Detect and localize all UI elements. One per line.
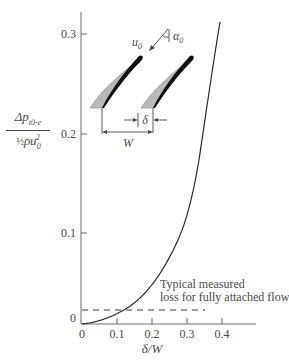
annotation-line-2: loss for fully attached flow [160,290,289,304]
arrow-head-icon [148,130,153,134]
x-tick-label: 0.1 [110,327,125,341]
x-tick-label: 0.4 [215,327,230,341]
arrow-head-icon [153,118,158,122]
blade-1 [90,55,143,108]
y-tick-label: 0.2 [61,127,76,141]
blade-2 [141,55,194,108]
gap-label: δ [142,113,148,127]
blade-2-body [153,55,194,108]
y-tick-label: 0.1 [61,226,76,240]
x-ticks [117,318,222,324]
x-tick-label: 0.2 [145,327,160,341]
inflow-arrow [151,29,169,49]
y-axis-label-denominator: ½ρu02 [6,131,50,151]
arrow-head-icon [133,118,138,122]
chart-canvas: 0.3 0.2 0.1 0 0 0.1 0.2 0.3 0.4 δ/W Typi… [0,0,289,361]
y-tick-label: 0 [70,311,76,325]
x-tick-label: 0.3 [180,327,195,341]
y-tick-label: 0.3 [61,27,76,41]
y-axis-label-numerator: Δpt0-e [6,110,50,131]
x-tick-label: 0 [79,327,85,341]
velocity-label: u0 [132,35,142,51]
angle-label: α0 [173,29,183,45]
blade-1-body [102,55,143,108]
annotation-line-1: Typical measured [160,277,245,291]
y-ticks [81,34,87,233]
y-axis-label: Δpt0-e ½ρu02 [6,110,50,151]
arrow-head-icon [102,130,107,134]
x-axis-label: δ/W [142,341,164,356]
pitch-label: W [123,136,134,150]
